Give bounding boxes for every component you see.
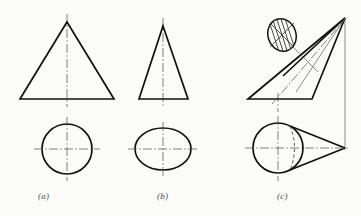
figure-label-a: (a): [38, 191, 49, 201]
figure-b-group: [128, 18, 199, 177]
figure-label-c: (c): [277, 191, 288, 201]
figure-label-b: (b): [157, 191, 168, 201]
fig-c-front-element-line: [296, 18, 345, 92]
fig-c-top-lower-tangent: [290, 148, 345, 170]
figure-c-group: [245, 15, 349, 181]
fig-c-front-triangle: [248, 18, 345, 99]
figure-a-group: [20, 14, 114, 181]
fig-c-detail-leader-line: [291, 45, 318, 72]
figure-page: .outline { fill: none; stroke: #111111; …: [0, 0, 361, 216]
fig-c-top-upper-tangent: [290, 126, 345, 148]
fig-c-front-axis-line: [272, 19, 345, 104]
fig-b-front-triangle: [139, 26, 188, 99]
engineering-drawing-canvas: .outline { fill: none; stroke: #111111; …: [0, 0, 361, 216]
